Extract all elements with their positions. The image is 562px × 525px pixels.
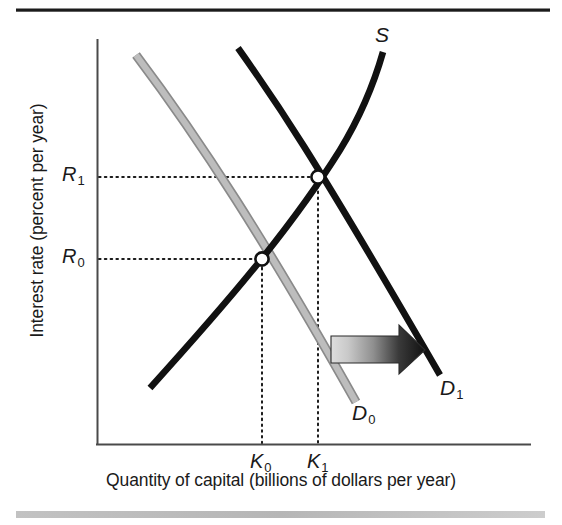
curve-label-supply: S (375, 24, 389, 45)
x-axis-title: Quantity of capital (billions of dollars… (0, 470, 562, 491)
x-tick-label-k0: K0 (250, 451, 271, 471)
figure-container: R1 R0 K0 K1 S D0 D1 Quantity of capital … (0, 0, 562, 525)
top-rule (16, 9, 550, 12)
curve-demand-initial (136, 55, 356, 402)
demand-shift-arrow (331, 325, 425, 374)
bottom-gray-bar (16, 511, 545, 518)
x-tick-label-k1: K1 (307, 451, 328, 471)
curve-label-demand-new: D1 (440, 377, 462, 398)
curve-demand-new (238, 48, 440, 375)
y-tick-label-r0: R0 (62, 246, 84, 266)
y-tick-label-r1: R1 (62, 164, 84, 184)
curve-label-demand-initial: D0 (352, 402, 374, 423)
equilibrium-point-1 (311, 170, 324, 183)
y-axis-title: Interest rate (percent per year) (27, 51, 48, 391)
equilibrium-point-0 (255, 252, 268, 265)
